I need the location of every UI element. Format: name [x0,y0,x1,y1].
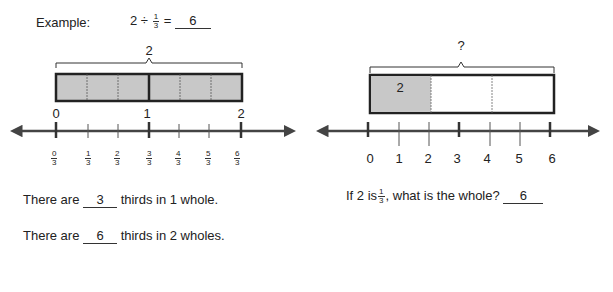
tick-label-4: 4 [483,151,490,166]
left-number-line: 0 1 2 [20,106,286,138]
sentence-3-answer-blank: 6 [503,189,543,204]
fraction-label-4-3: 43 [175,150,181,167]
shaded-part-label: 2 [396,80,403,95]
right-brace-label: ? [457,38,464,53]
sentence-3-prefix: If 2 is [346,188,377,203]
sentence-thirds-in-1-whole: There are 3 thirds in 1 whole. [23,192,218,208]
fraction-label-3-3: 33 [146,150,152,167]
sentence-2-prefix: There are [23,228,79,243]
sentence-thirds-in-2-wholes: There are 6 thirds in 2 wholes. [23,228,225,244]
tick-label-2: 2 [424,151,431,166]
fraction-label-6-3: 63 [234,150,240,167]
diagrams-canvas: 2 0 1 2 ? 2 [0,0,613,292]
left-tape-diagram: 2 [56,43,242,101]
left-brace [56,58,242,68]
left-brace-label: 2 [145,43,152,58]
right-tape-diagram: ? 2 [370,38,554,113]
tick-label-5: 5 [515,151,522,166]
right-number-line: 0 1 2 3 4 5 6 [326,122,590,166]
fraction-label-5-3: 53 [205,150,211,167]
right-brace [370,62,554,73]
tick-label-6: 6 [548,151,555,166]
tick-label-1: 1 [395,151,402,166]
tick-label-0: 0 [366,151,373,166]
sentence-find-whole: If 2 is13, what is the whole? 6 [346,188,543,205]
fraction-label-1-3: 13 [85,150,91,167]
fraction-labels: 03 13 23 33 43 53 63 [50,150,250,180]
whole-label-0: 0 [52,106,59,121]
whole-label-2: 2 [237,106,244,121]
sentence-3-suffix: , what is the whole? [386,188,500,203]
fraction-label-0-3: 03 [51,150,57,167]
sentence-2-suffix: thirds in 2 wholes. [121,228,225,243]
sentence-2-answer-blank: 6 [83,229,117,244]
fraction-label-2-3: 23 [114,150,120,167]
tick-label-3: 3 [453,151,460,166]
sentence-3-fraction: 13 [378,188,384,205]
sentence-1-prefix: There are [23,192,79,207]
sentence-1-answer-blank: 3 [83,193,117,208]
whole-label-1: 1 [143,106,150,121]
sentence-1-suffix: thirds in 1 whole. [121,192,219,207]
